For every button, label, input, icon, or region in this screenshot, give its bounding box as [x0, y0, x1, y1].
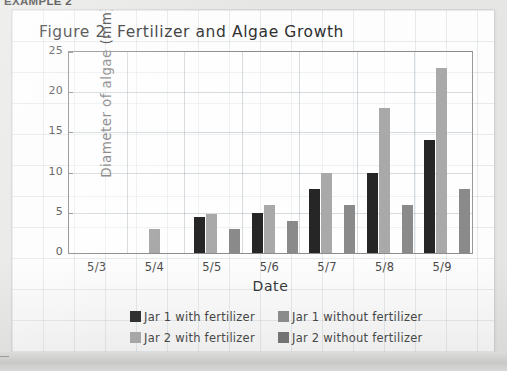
legend-swatch-icon [278, 332, 289, 343]
bar [287, 221, 298, 253]
figure-card: Figure 2. Fertilizer and Algae Growth Di… [12, 10, 494, 352]
legend-swatch-icon [278, 311, 289, 322]
x-axis-tick-labels: 5/35/45/55/65/75/85/9 [68, 256, 473, 276]
x-axis-title: Date [68, 278, 473, 294]
bar [367, 173, 378, 253]
bar [206, 214, 217, 253]
x-gridline [299, 52, 300, 253]
legend-item: Jar 1 without fertilizer [278, 310, 422, 324]
x-tick-label: 5/7 [317, 260, 336, 274]
legend-label: Jar 2 with fertilizer [144, 331, 255, 345]
x-gridline [127, 52, 128, 253]
x-tick-label: 5/9 [432, 260, 451, 274]
x-tick-label: 5/3 [87, 260, 106, 274]
y-gridline [69, 132, 472, 133]
legend-label: Jar 2 without fertilizer [292, 331, 422, 345]
x-tick-label: 5/4 [145, 260, 164, 274]
bar [436, 68, 447, 253]
page-edge-mark [0, 356, 9, 357]
bar [379, 108, 390, 253]
scanned-page: EXAMPLE 2 Figure 2. Fertilizer and Algae… [0, 0, 507, 371]
bar [264, 205, 275, 253]
example-heading: EXAMPLE 2 [4, 0, 72, 7]
bar [424, 140, 435, 253]
bar [229, 229, 240, 253]
legend-item: Jar 2 without fertilizer [278, 331, 422, 345]
y-tick-mark [69, 52, 73, 53]
y-tick-label: 10 [41, 165, 63, 178]
y-tick-mark [69, 132, 73, 133]
y-tick-mark [69, 253, 73, 254]
x-gridline [414, 52, 415, 253]
y-tick-label: 20 [41, 84, 63, 97]
bar [344, 205, 355, 253]
y-tick-label: 25 [41, 44, 63, 57]
x-tick-label: 5/8 [375, 260, 394, 274]
x-gridline [242, 52, 243, 253]
x-gridline [357, 52, 358, 253]
legend-swatch-icon [130, 311, 141, 322]
y-gridline [69, 92, 472, 93]
y-tick-mark [69, 173, 73, 174]
bar [402, 205, 413, 253]
bar [252, 213, 263, 253]
y-gridline [69, 173, 472, 174]
legend-row: Jar 1 with fertilizerJar 1 without ferti… [130, 306, 430, 327]
page-bottom-edge [0, 352, 507, 371]
legend-label: Jar 1 without fertilizer [292, 310, 422, 324]
bar [321, 173, 332, 253]
legend-item: Jar 2 with fertilizer [130, 331, 278, 345]
legend-item: Jar 1 with fertilizer [130, 310, 278, 324]
legend-swatch-icon [130, 332, 141, 343]
bar [149, 229, 160, 253]
y-tick-mark [69, 92, 73, 93]
x-tick-label: 5/6 [260, 260, 279, 274]
bar [459, 189, 470, 253]
x-tick-label: 5/5 [202, 260, 221, 274]
y-tick-label: 0 [41, 245, 63, 258]
y-tick-mark [69, 213, 73, 214]
bar [309, 189, 320, 253]
legend-label: Jar 1 with fertilizer [144, 310, 255, 324]
chart-title: Figure 2. Fertilizer and Algae Growth [39, 23, 344, 41]
legend-row: Jar 2 with fertilizerJar 2 without ferti… [130, 327, 430, 348]
x-gridline [184, 52, 185, 253]
plot-area [68, 51, 473, 254]
y-tick-label: 15 [41, 124, 63, 137]
bar [194, 217, 205, 253]
chart-legend: Jar 1 with fertilizerJar 1 without ferti… [130, 306, 430, 348]
y-tick-label: 5 [41, 205, 63, 218]
